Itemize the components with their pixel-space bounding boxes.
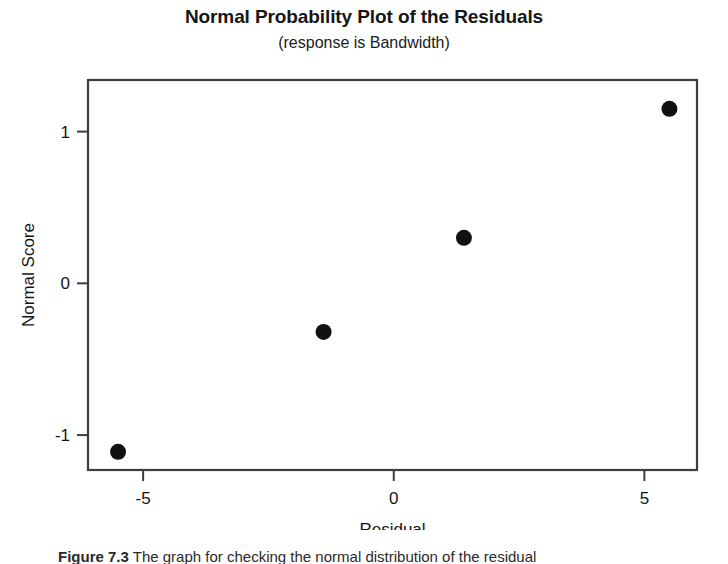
y-axis-tick-label: -1 <box>55 426 70 445</box>
y-axis-title: Normal Score <box>19 223 38 327</box>
figure-caption-label: Figure 7.3 <box>58 548 129 564</box>
figure-container: Normal Probability Plot of the Residuals… <box>0 0 728 564</box>
data-point <box>316 324 332 340</box>
figure-caption: Figure 7.3 The graph for checking the no… <box>58 548 718 564</box>
x-axis-tick-label: 5 <box>640 489 649 508</box>
x-axis-tick-label: -5 <box>136 489 151 508</box>
data-point <box>661 101 677 117</box>
data-point <box>456 230 472 246</box>
y-axis-tick-label: 0 <box>61 274 70 293</box>
plot-frame <box>88 80 697 470</box>
figure-caption-text: The graph for checking the normal distri… <box>133 548 537 564</box>
y-axis-tick-label: 1 <box>61 123 70 142</box>
x-axis-tick-label: 0 <box>389 489 398 508</box>
x-axis-title: Residual <box>359 520 425 530</box>
data-point <box>110 444 126 460</box>
normal-probability-plot: -505-101ResidualNormal Score <box>0 0 728 530</box>
